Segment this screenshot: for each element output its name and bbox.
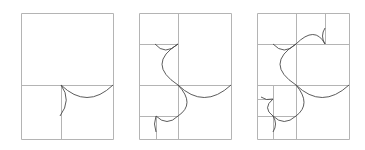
subdivision-diagram: [0, 0, 365, 150]
arc-curve: [61, 85, 113, 98]
arc-curve: [178, 85, 187, 116]
arc-curve: [323, 28, 326, 44]
panel-stage-2: [140, 14, 232, 140]
arc-curve: [155, 116, 157, 132]
arc-curve: [268, 99, 274, 116]
arc-curve: [60, 85, 66, 116]
panel-stage-1: [22, 14, 114, 140]
arc-curve: [296, 85, 349, 98]
arc-curve: [296, 85, 304, 116]
arc-curve: [296, 35, 325, 45]
panel-stage-3: [258, 14, 350, 140]
